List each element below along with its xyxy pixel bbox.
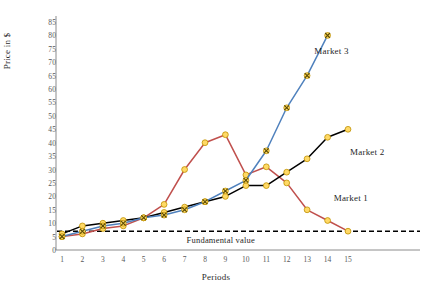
data-point-market-3 [284, 105, 290, 111]
x-tick-label: 11 [255, 255, 277, 264]
data-point-market-2 [284, 169, 290, 175]
marker-dot [223, 132, 229, 138]
x-tick-label: 9 [214, 255, 236, 264]
data-point-market-1 [284, 180, 290, 186]
x-tick-label: 4 [112, 255, 134, 264]
x-tick-label: 5 [133, 255, 155, 264]
data-point-market-3 [325, 33, 331, 39]
x-tick-label: 14 [317, 255, 339, 264]
x-axis-title: Periods [0, 272, 432, 282]
data-point-market-1 [325, 218, 331, 224]
data-point-market-2 [223, 194, 229, 200]
marker-dot [223, 194, 229, 200]
marker-dot [284, 180, 290, 186]
data-point-market-3 [202, 199, 208, 205]
data-point-market-1 [263, 164, 269, 170]
data-point-market-1 [202, 140, 208, 146]
data-point-market-1 [182, 167, 188, 173]
data-point-market-2 [325, 134, 331, 140]
data-point-market-1 [223, 132, 229, 138]
data-point-market-3 [59, 234, 65, 240]
x-tick-label: 12 [276, 255, 298, 264]
data-point-market-3 [304, 73, 310, 79]
x-tick-label: 15 [337, 255, 359, 264]
marker-dot [161, 202, 167, 208]
marker-dot [284, 169, 290, 175]
data-point-market-3 [120, 220, 126, 226]
x-tick-label: 13 [296, 255, 318, 264]
data-point-market-2 [345, 126, 351, 132]
x-tick-label: 3 [92, 255, 114, 264]
data-point-market-1 [304, 207, 310, 213]
data-point-market-1 [345, 228, 351, 234]
data-point-market-3 [243, 177, 249, 183]
x-tick-label: 7 [174, 255, 196, 264]
x-tick-label: 6 [153, 255, 175, 264]
marker-dot [202, 140, 208, 146]
marker-dot [325, 218, 331, 224]
fundamental-value-label: Fundamental value [187, 235, 255, 245]
data-point-market-3 [161, 212, 167, 218]
x-tick-label: 2 [71, 255, 93, 264]
x-tick-label: 8 [194, 255, 216, 264]
marker-dot [182, 167, 188, 173]
marker-dot [325, 134, 331, 140]
marker-dot [345, 228, 351, 234]
x-tick-label: 1 [51, 255, 73, 264]
series-line-market-3 [62, 35, 328, 236]
series-label-market-3: Market 3 [314, 46, 348, 56]
data-point-market-3 [263, 148, 269, 154]
series-label-market-2: Market 2 [350, 147, 384, 157]
data-point-market-3 [80, 228, 86, 234]
data-point-market-1 [161, 202, 167, 208]
x-tick-label: 10 [235, 255, 257, 264]
marker-dot [263, 183, 269, 189]
marker-dot [304, 156, 310, 162]
marker-dot [345, 126, 351, 132]
data-point-market-2 [304, 156, 310, 162]
marker-dot [263, 164, 269, 170]
data-point-market-3 [182, 207, 188, 213]
price-evolution-line-chart: Price in $ 05101520253035404550556065707… [0, 0, 432, 294]
series-label-market-1: Market 1 [334, 193, 368, 203]
marker-dot [304, 207, 310, 213]
data-point-market-2 [263, 183, 269, 189]
data-point-market-3 [100, 223, 106, 229]
data-point-market-3 [223, 188, 229, 194]
data-point-market-3 [141, 215, 147, 221]
